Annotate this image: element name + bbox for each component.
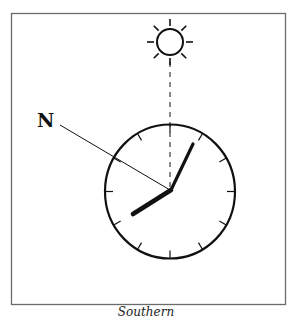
clock-tick xyxy=(199,133,203,140)
clock-tick xyxy=(114,221,121,225)
sun-ray xyxy=(154,53,159,58)
frame xyxy=(12,14,286,305)
sun-ray xyxy=(154,26,159,31)
clock-tick xyxy=(138,243,142,250)
clock-tick xyxy=(138,133,142,140)
clock-tick xyxy=(199,243,203,250)
sun-disc xyxy=(157,29,183,55)
southern-hemisphere-compass-diagram: N xyxy=(0,0,292,321)
minute-hand xyxy=(171,144,193,190)
sun-icon xyxy=(147,19,193,65)
clock-tick xyxy=(219,158,226,162)
sun-ray xyxy=(181,26,186,31)
clock-tick xyxy=(219,221,226,225)
north-pointer-line xyxy=(60,125,170,190)
caption: Southern xyxy=(0,305,292,319)
north-label: N xyxy=(37,109,54,131)
sun-ray xyxy=(181,53,186,58)
hour-hand xyxy=(133,190,171,214)
